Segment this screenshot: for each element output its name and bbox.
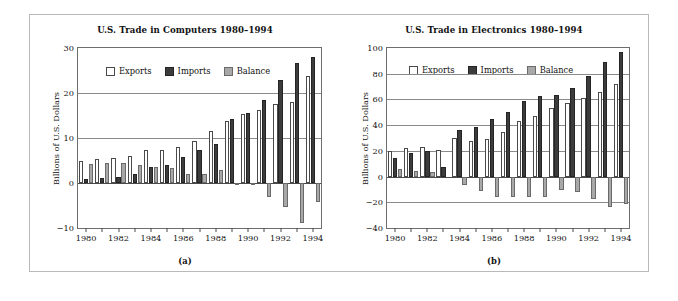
chart-panel-a: U.S. Trade in Computers 1980–1994 Billio… [30,15,340,273]
bar-balance-1982 [121,163,125,183]
bar-imports-1989 [230,119,234,183]
x-axis-tick-mark [459,228,460,232]
bar-balance-1985 [479,177,483,192]
bar-exports-1994 [614,84,618,176]
legend-a: Exports Imports Balance [106,66,270,76]
bar-imports-1990 [246,113,250,183]
bar-exports-1984 [144,150,148,183]
x-axis-tick-mark [280,228,281,232]
x-axis-tick-mark [199,228,200,232]
x-axis-tick-label: 1986 [173,233,194,243]
bar-exports-1994 [306,76,310,183]
chart-title-b: U.S. Trade in Electronics 1980–1994 [340,25,648,35]
x-axis-tick-mark [150,228,151,232]
gridline [78,93,321,94]
bar-imports-1980 [393,158,397,177]
x-axis-tick-label: 1980 [76,233,97,243]
bar-imports-1993 [295,63,299,183]
x-axis-tick-mark [395,228,396,232]
bar-balance-1991 [575,177,579,192]
bar-imports-1986 [181,157,185,183]
y-axis-tick-label: 40 [373,120,383,130]
plot-area-b: Exports Imports Balance 1980198219841986… [386,47,630,229]
bar-imports-1990 [554,95,558,177]
bar-balance-1990 [251,183,255,185]
bar-exports-1985 [160,150,164,183]
bar-balance-1991 [267,183,271,197]
x-axis-tick-label: 1994 [302,233,323,243]
gridline [387,74,629,75]
bar-balance-1993 [608,177,612,208]
bar-imports-1983 [441,167,445,176]
x-axis-tick-mark [167,228,168,232]
x-axis-tick-label: 1988 [514,233,535,243]
x-axis-tick-label: 1980 [385,233,406,243]
bar-exports-1984 [452,138,456,176]
y-axis-tick-label: 30 [64,43,74,53]
bar-balance-1984 [462,177,466,186]
x-axis-tick-mark [264,228,265,232]
bar-imports-1994 [311,57,315,183]
bar-balance-1983 [138,165,142,183]
bar-balance-1986 [186,174,190,183]
x-axis-tick-mark [540,228,541,232]
x-axis-tick-mark [183,228,184,232]
bar-exports-1991 [565,103,569,176]
chart-panel-b: U.S. Trade in Electronics 1980–1994 Bill… [340,15,648,273]
x-axis-tick-mark [556,228,557,232]
legend-swatch-balance-icon [224,67,233,76]
bar-exports-1993 [290,102,294,183]
bar-imports-1992 [278,80,282,183]
figure-frame: U.S. Trade in Computers 1980–1994 Billio… [29,14,649,272]
bar-imports-1981 [100,178,104,183]
bar-balance-1988 [219,170,223,184]
gridline [387,202,629,203]
bar-balance-1987 [511,177,515,198]
bar-exports-1980 [79,161,83,183]
bar-imports-1985 [474,127,478,177]
bar-imports-1989 [538,96,542,177]
bar-balance-1984 [154,167,158,183]
bar-imports-1981 [409,153,413,176]
panel-caption-a: (a) [30,256,340,266]
bar-balance-1989 [235,183,239,185]
y-axis-tick-label: −20 [366,197,383,207]
x-axis-tick-label: 1988 [205,233,226,243]
bar-balance-1985 [170,168,174,183]
panel-caption-b: (b) [340,256,648,266]
bar-exports-1980 [388,151,392,177]
x-axis-tick-mark [604,228,605,232]
y-axis-tick-label: 80 [373,69,383,79]
x-axis-tick-label: 1990 [546,233,567,243]
x-axis-tick-label: 1990 [238,233,259,243]
bar-balance-1980 [89,164,93,183]
y-axis-tick-label: 20 [64,88,74,98]
bar-exports-1992 [581,98,585,177]
bar-exports-1990 [241,114,245,183]
legend-label-balance: Balance [237,66,271,76]
bar-balance-1990 [559,177,563,191]
x-axis-tick-label: 1982 [417,233,438,243]
bar-balance-1994 [624,177,628,205]
bar-balance-1992 [591,177,595,200]
bar-imports-1987 [197,150,201,183]
bar-balance-1993 [300,183,304,223]
bar-imports-1993 [603,62,607,177]
bar-balance-1981 [105,163,109,183]
gridline [78,138,321,139]
bar-imports-1983 [133,174,137,183]
bar-imports-1994 [619,52,623,176]
x-axis-tick-mark [118,228,119,232]
x-axis-tick-mark [86,228,87,232]
legend-item-imports: Imports [165,66,211,76]
x-axis-tick-label: 1992 [270,233,291,243]
x-axis-tick-label: 1994 [611,233,632,243]
bar-exports-1986 [176,147,180,183]
bar-exports-1982 [111,158,115,183]
legend-label-imports: Imports [178,66,211,76]
y-axis-tick-label: 100 [367,43,383,53]
bar-exports-1987 [192,141,196,183]
bar-exports-1989 [533,116,537,177]
bar-imports-1992 [586,76,590,176]
bar-imports-1988 [522,101,526,176]
